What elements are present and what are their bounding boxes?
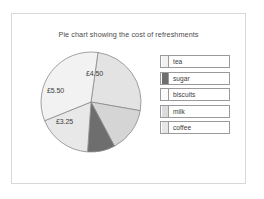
legend-swatch-milk	[162, 106, 169, 117]
legend-item-coffee[interactable]: coffee	[160, 121, 230, 134]
legend-item-milk[interactable]: milk	[160, 105, 230, 118]
legend-item-biscuits[interactable]: biscuits	[160, 88, 230, 101]
chart-figure-frame: Pie chart showing the cost of refreshmen…	[11, 13, 246, 184]
pie-slice-group	[41, 52, 141, 152]
chart-legend: teasugarbiscuitsmilkcoffee	[160, 55, 230, 138]
pie-chart-svg	[39, 50, 143, 154]
pie-slice-label-tea: £4.50	[86, 70, 103, 77]
pie-slice-label-biscuits: £5.50	[47, 87, 64, 94]
legend-label-biscuits: biscuits	[173, 91, 195, 98]
pie-chart: £4.50£3.25£5.50	[39, 50, 143, 154]
legend-label-sugar: sugar	[173, 75, 190, 82]
legend-swatch-sugar	[162, 73, 169, 84]
pie-slice-label-milk: £3.25	[56, 118, 73, 125]
pie-slice-tea[interactable]	[91, 52, 141, 110]
chart-title: Pie chart showing the cost of refreshmen…	[12, 30, 245, 39]
legend-swatch-coffee	[162, 122, 169, 133]
legend-label-milk: milk	[173, 108, 185, 115]
legend-swatch-biscuits	[162, 89, 169, 100]
legend-label-coffee: coffee	[173, 124, 191, 131]
legend-swatch-tea	[162, 56, 169, 67]
legend-item-sugar[interactable]: sugar	[160, 72, 230, 85]
legend-label-tea: tea	[173, 58, 182, 65]
legend-item-tea[interactable]: tea	[160, 55, 230, 68]
